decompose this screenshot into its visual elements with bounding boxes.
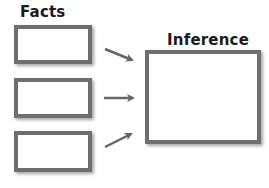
arrow-fact3-to-inference xyxy=(105,134,131,147)
arrows xyxy=(0,0,269,188)
arrow-fact1-to-inference xyxy=(105,49,132,60)
